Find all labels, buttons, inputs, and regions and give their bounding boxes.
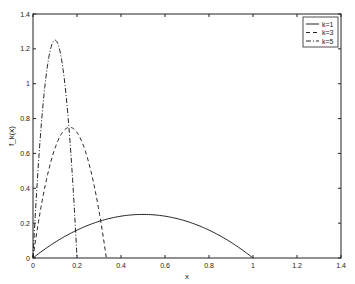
y-tick-label: 0: [26, 255, 30, 262]
x-tick-label: 1: [251, 262, 255, 269]
x-tick-label: 1.2: [292, 262, 302, 269]
y-axis-label: f_k(x): [7, 126, 16, 146]
legend-label-k=3: k=3: [322, 29, 334, 36]
y-tick-label: 0.4: [20, 185, 30, 192]
series-k=3: [33, 127, 106, 258]
line-chart: 00.20.40.60.811.21.400.20.40.60.811.21.4…: [0, 0, 355, 284]
legend-label-k=1: k=1: [322, 21, 334, 28]
x-tick-label: 0.6: [160, 262, 170, 269]
y-tick-label: 0.6: [20, 150, 30, 157]
series-k=5: [33, 40, 77, 258]
x-tick-label: 0: [31, 262, 35, 269]
x-tick-label: 0.2: [72, 262, 82, 269]
series-k=1: [33, 214, 253, 258]
y-tick-label: 1.2: [20, 45, 30, 52]
y-tick-label: 0.2: [20, 220, 30, 227]
x-tick-label: 0.8: [204, 262, 214, 269]
x-tick-label: 1.4: [336, 262, 346, 269]
y-tick-label: 1.4: [20, 11, 30, 18]
y-tick-label: 1: [26, 80, 30, 87]
legend-label-k=5: k=5: [322, 38, 334, 45]
x-tick-label: 0.4: [116, 262, 126, 269]
x-axis-label: x: [185, 272, 189, 281]
y-tick-label: 0.8: [20, 115, 30, 122]
